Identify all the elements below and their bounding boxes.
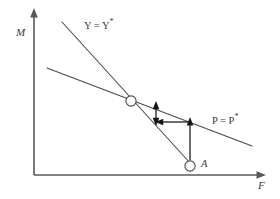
- y-axis-label: M: [16, 27, 25, 38]
- y-equilibrium-line-label: Y = Y*: [84, 18, 114, 31]
- x-axis-label: F: [258, 180, 265, 191]
- p-curve-label-text: P = P: [212, 115, 234, 126]
- y-curve-label-text: Y = Y: [84, 20, 110, 31]
- vertical-double-arrow-up-head: [153, 101, 160, 109]
- y-equilibrium-line: [62, 22, 190, 163]
- point-a-label: A: [201, 159, 207, 170]
- economic-phase-diagram: M F Y = Y* P = P* A: [0, 0, 280, 199]
- diagram-canvas: [0, 0, 280, 199]
- y-curve-label-star: *: [110, 17, 114, 26]
- point-a-node: [185, 161, 195, 171]
- p-equilibrium-line-label: P = P*: [212, 113, 238, 126]
- equilibrium-point: [126, 96, 136, 106]
- x-axis-arrowhead: [257, 171, 267, 179]
- y-axis-arrowhead: [30, 8, 38, 18]
- p-curve-label-star: *: [234, 112, 238, 121]
- p-equilibrium-line: [47, 68, 252, 146]
